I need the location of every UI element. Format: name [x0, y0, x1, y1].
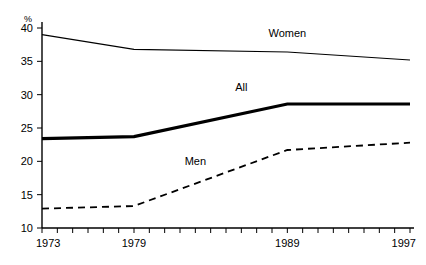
series-label-men: Men — [185, 155, 206, 167]
y-axis-unit-label: % — [24, 14, 32, 24]
series-line-men — [42, 143, 410, 209]
series-label-women: Women — [268, 27, 306, 39]
x-tick-label: 1989 — [275, 237, 299, 249]
series-line-women — [42, 35, 410, 60]
x-axis-tick-labels: 1973197919891997 — [36, 237, 416, 249]
y-tick-label: 15 — [21, 189, 33, 201]
y-axis-ticks — [37, 28, 42, 228]
series-label-all: All — [235, 81, 247, 93]
y-tick-label: 20 — [21, 155, 33, 167]
x-tick-label: 1979 — [122, 237, 146, 249]
y-tick-label: 25 — [21, 122, 33, 134]
y-axis-tick-labels: 10152025303540 — [21, 22, 33, 234]
axes-group — [42, 22, 414, 228]
y-tick-label: 30 — [21, 89, 33, 101]
x-tick-label: 1973 — [36, 237, 60, 249]
y-tick-label: 10 — [21, 222, 33, 234]
x-tick-label: 1997 — [392, 237, 416, 249]
series-lines-group — [42, 35, 410, 209]
series-line-all — [42, 104, 410, 139]
x-axis-ticks — [42, 228, 410, 233]
series-inline-labels-group: WomenAllMen — [185, 27, 307, 167]
line-chart: 10152025303540 1973197919891997 % WomenA… — [0, 0, 426, 265]
chart-canvas: 10152025303540 1973197919891997 % WomenA… — [0, 0, 426, 265]
y-tick-label: 35 — [21, 55, 33, 67]
